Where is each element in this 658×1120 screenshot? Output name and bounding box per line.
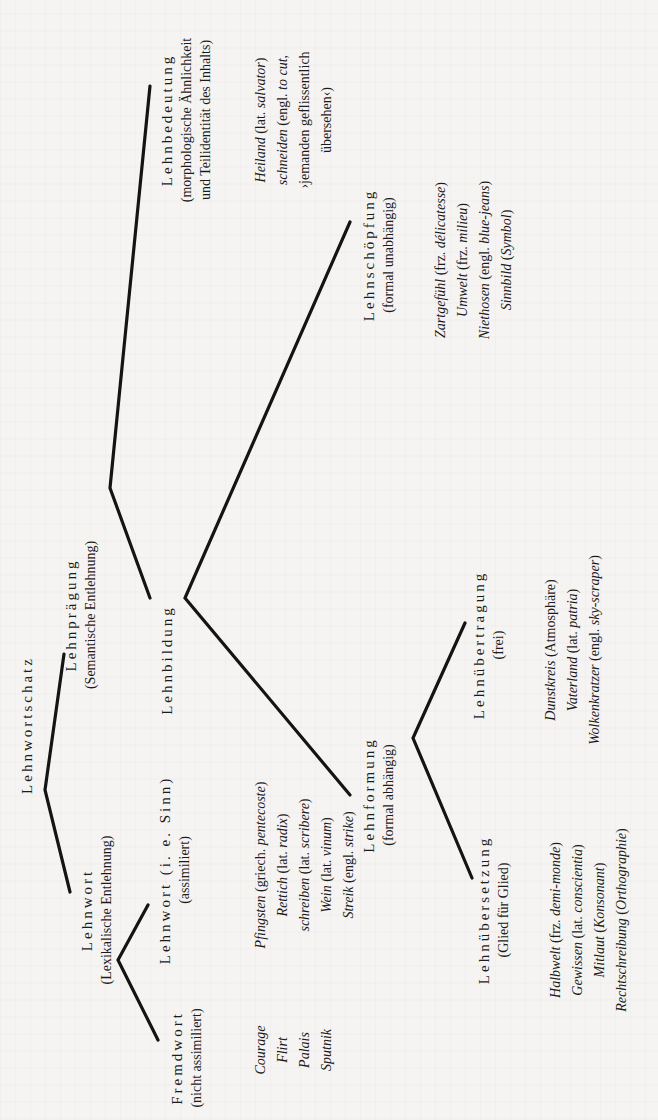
example: Mitlaut (Konsonant) <box>589 828 611 1011</box>
example: Rechtschreibung (Orthographie) <box>611 828 633 1011</box>
lehnbedeutung-examples: Heiland (lat. salvator) schneiden (engl.… <box>250 51 338 188</box>
node-subtitle: (Glied für Glied) <box>494 836 513 984</box>
node-title: Lehnwortschatz <box>18 656 37 794</box>
example: Niethosen (engl. blue-jeans) <box>474 181 496 339</box>
node-subtitle: (formal abhängig) <box>379 737 398 852</box>
edge-lehnformung <box>413 623 472 878</box>
example: Vaterland (lat. patria) <box>562 555 584 745</box>
example: übersehen‹) <box>316 51 338 188</box>
edge-lehnbildung <box>185 222 350 795</box>
example: schneiden (engl. to cut, <box>272 51 294 188</box>
lehnwort-sinn-examples: Pfingsten (griech. pentecoste) Rettich (… <box>250 782 360 949</box>
example: Wolkenkratzer (engl. sky-scraper) <box>584 555 606 745</box>
node-title: Lehnbildung <box>158 605 177 715</box>
fremdwort-examples: Courage Flirt Palais Sputnik <box>250 1026 338 1075</box>
example: Rettich (lat. radix) <box>272 782 294 949</box>
node-fremdwort: Fremdwort (nicht assimiliert) <box>168 1008 206 1107</box>
example: Dunstkreis (Atmosphäre) <box>540 555 562 745</box>
example: Sinnbild (Symbol) <box>496 181 518 339</box>
node-subtitle: und Teilidentität des Inhalts) <box>196 38 215 202</box>
example: Zartgefühl (frz. délicatesse) <box>430 181 452 339</box>
node-lehnformung: Lehnformung (formal abhängig) <box>360 737 398 852</box>
example: Umwelt (frz. milieu) <box>452 181 474 339</box>
node-lehnuebertragung: Lehnübertragung (frei) <box>470 571 508 719</box>
node-lehnwortschatz: Lehnwortschatz <box>18 656 37 794</box>
node-subtitle: (formal unabhängig) <box>379 189 398 321</box>
edge-lehnpraegung <box>110 86 150 598</box>
node-title: Lehnübertragung <box>470 571 489 719</box>
node-lehnbedeutung: Lehnbedeutung (morphologische Ähnlichkei… <box>158 38 215 202</box>
node-title: Lehnübersetzung <box>475 836 494 984</box>
example: ›jemanden geflissentlich <box>294 51 316 188</box>
lehnuebersetzung-examples: Halbwelt (frz. demi-monde) Gewissen (lat… <box>545 828 633 1011</box>
node-lehnuebersetzung: Lehnübersetzung (Glied für Glied) <box>475 836 513 984</box>
node-title: Lehnprägung <box>62 541 81 689</box>
node-subtitle: (assimiliert) <box>175 776 194 964</box>
node-subtitle: (nicht assimiliert) <box>187 1008 206 1107</box>
node-subtitle: (frei) <box>489 571 508 719</box>
rotated-diagram-canvas: Lehnwortschatz Lehnwort (Lexikalische En… <box>0 0 658 1120</box>
node-title: Fremdwort <box>168 1008 187 1107</box>
node-lehnwort-i-e-sinn: Lehnwort (i. e. Sinn) (assimiliert) <box>156 776 194 964</box>
lehnuebertragung-examples: Dunstkreis (Atmosphäre) Vaterland (lat. … <box>540 555 606 745</box>
edge-root <box>45 654 70 892</box>
node-title: Lehnwort (i. e. Sinn) <box>156 776 175 964</box>
node-title: Lehnbedeutung <box>158 38 177 202</box>
example: Heiland (lat. salvator) <box>250 51 272 188</box>
node-title: Lehnwort <box>78 836 97 985</box>
node-subtitle: (Lexikalische Entlehnung) <box>97 836 116 985</box>
lehnschoepfung-examples: Zartgefühl (frz. délicatesse) Umwelt (fr… <box>430 181 518 339</box>
node-lehnschoepfung: Lehnschöpfung (formal unabhängig) <box>360 189 398 321</box>
example: Sputnik <box>316 1026 338 1075</box>
node-title: Lehnformung <box>360 737 379 852</box>
example: Gewissen (lat. conscientia) <box>567 828 589 1011</box>
node-subtitle: (morphologische Ähnlichkeit <box>177 38 196 202</box>
example: Streik (engl. strike) <box>338 782 360 949</box>
node-lehnwort: Lehnwort (Lexikalische Entlehnung) <box>78 836 116 985</box>
example: Flirt <box>272 1026 294 1075</box>
node-title: Lehnschöpfung <box>360 189 379 321</box>
node-lehnbildung: Lehnbildung <box>158 605 177 715</box>
example: Pfingsten (griech. pentecoste) <box>250 782 272 949</box>
example: Wein (lat. vinum) <box>316 782 338 949</box>
example: Palais <box>294 1026 316 1075</box>
edge-lehnwort <box>118 905 158 1040</box>
node-subtitle: (Semantische Entlehnung) <box>81 541 100 689</box>
scanned-page: Lehnwortschatz Lehnwort (Lexikalische En… <box>0 0 658 1120</box>
example: Courage <box>250 1026 272 1075</box>
node-lehnpraegung: Lehnprägung (Semantische Entlehnung) <box>62 541 100 689</box>
example: Halbwelt (frz. demi-monde) <box>545 828 567 1011</box>
example: schreiben (lat. scribere) <box>294 782 316 949</box>
